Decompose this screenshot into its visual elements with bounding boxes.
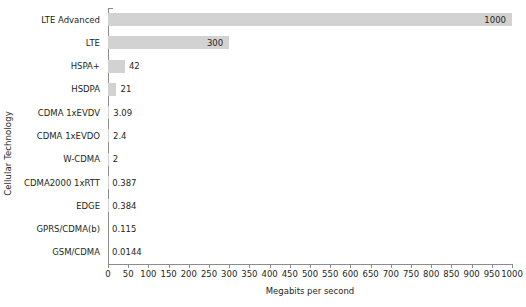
x-tick-mark: [209, 264, 210, 268]
category-label: HSDPA: [0, 78, 104, 101]
x-tick-label: 700: [383, 269, 399, 279]
x-tick-mark: [492, 264, 493, 268]
x-tick-mark: [310, 264, 311, 268]
bar-row: 3.09: [108, 101, 512, 124]
bar-row: 2: [108, 148, 512, 171]
x-tick-mark: [451, 264, 452, 268]
x-tick-label: 400: [261, 269, 277, 279]
x-tick-label: 350: [241, 269, 257, 279]
x-tick-mark: [148, 264, 149, 268]
x-tick-mark: [391, 264, 392, 268]
x-tick-mark: [229, 264, 230, 268]
bar-value-label: 3.09: [113, 108, 132, 118]
bar[interactable]: [108, 83, 116, 96]
category-label: CDMA 1xEVDV: [0, 101, 104, 124]
bar-chart: Cellular Technology LTE AdvancedLTEHSPA+…: [0, 0, 526, 307]
bar[interactable]: [108, 13, 512, 26]
category-label: LTE: [0, 31, 104, 54]
bar-row: 2.4: [108, 124, 512, 147]
bar-value-label: 0.0144: [112, 247, 142, 257]
category-label: HSPA+: [0, 55, 104, 78]
x-tick-mark: [431, 264, 432, 268]
x-tick-label: 200: [181, 269, 197, 279]
bar-row: 0.384: [108, 194, 512, 217]
x-tick-mark: [128, 264, 129, 268]
bar-rows: 100030042213.092.420.3870.3840.1150.0144: [108, 8, 512, 264]
x-tick-label: 950: [484, 269, 500, 279]
plot-area: 100030042213.092.420.3870.3840.1150.0144: [108, 8, 512, 264]
bar-row: 21: [108, 78, 512, 101]
x-tick-label: 0: [105, 269, 110, 279]
x-tick-mark: [189, 264, 190, 268]
category-label: W-CDMA: [0, 148, 104, 171]
bar-value-label: 2: [113, 154, 118, 164]
x-tick-label: 250: [201, 269, 217, 279]
x-tick-label: 850: [443, 269, 459, 279]
x-tick-label: 50: [123, 269, 134, 279]
x-axis-title: Megabits per second: [108, 286, 512, 296]
bar-value-label: 0.384: [112, 201, 136, 211]
x-tick-mark: [290, 264, 291, 268]
x-tick-label: 800: [423, 269, 439, 279]
bar[interactable]: [108, 129, 109, 142]
category-label-column: LTE AdvancedLTEHSPA+HSDPACDMA 1xEVDVCDMA…: [0, 8, 104, 264]
x-tick-mark: [472, 264, 473, 268]
x-tick-label: 750: [403, 269, 419, 279]
bar-row: 0.387: [108, 171, 512, 194]
x-tick-label: 650: [362, 269, 378, 279]
bar-row: 42: [108, 55, 512, 78]
x-tick-label: 300: [221, 269, 237, 279]
x-tick-mark: [270, 264, 271, 268]
x-tick-label: 1000: [501, 269, 523, 279]
bar-value-label: 0.387: [112, 178, 136, 188]
x-tick-label: 600: [342, 269, 358, 279]
x-tick-mark: [350, 264, 351, 268]
x-tick-mark: [330, 264, 331, 268]
bar[interactable]: [108, 153, 109, 166]
bar-value-label: 1000: [484, 15, 506, 25]
x-tick-mark: [371, 264, 372, 268]
category-label: LTE Advanced: [0, 8, 104, 31]
x-tick-label: 500: [302, 269, 318, 279]
x-tick-label: 150: [160, 269, 176, 279]
category-label: CDMA2000 1xRTT: [0, 171, 104, 194]
x-tick-label: 100: [140, 269, 156, 279]
bar-value-label: 42: [129, 61, 140, 71]
bar-row: 1000: [108, 8, 512, 31]
category-label: GPRS/CDMA(b): [0, 217, 104, 240]
bar-row: 0.115: [108, 217, 512, 240]
x-tick-mark: [249, 264, 250, 268]
x-tick-label: 450: [282, 269, 298, 279]
x-tick-label: 550: [322, 269, 338, 279]
bar-row: 300: [108, 31, 512, 54]
category-label: CDMA 1xEVDO: [0, 124, 104, 147]
bar-row: 0.0144: [108, 241, 512, 264]
x-tick-mark: [411, 264, 412, 268]
x-tick-mark: [169, 264, 170, 268]
bar-value-label: 0.115: [112, 224, 136, 234]
x-axis-ticks: 0501001502002503003504004505005506006507…: [108, 264, 512, 284]
bar-value-label: 21: [120, 84, 131, 94]
bar[interactable]: [108, 60, 125, 73]
category-label: GSM/CDMA: [0, 241, 104, 264]
bar-value-label: 2.4: [113, 131, 127, 141]
category-label: EDGE: [0, 194, 104, 217]
bar-value-label: 300: [207, 38, 223, 48]
bar[interactable]: [108, 106, 109, 119]
x-tick-mark: [512, 264, 513, 268]
x-tick-label: 900: [463, 269, 479, 279]
x-tick-mark: [108, 264, 109, 268]
